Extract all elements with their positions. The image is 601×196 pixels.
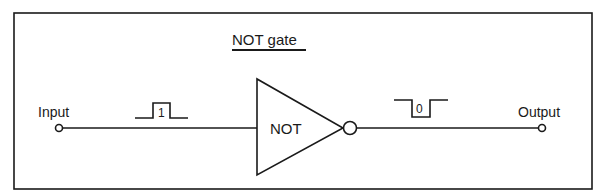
inversion-bubble-icon xyxy=(344,122,357,135)
diagram-frame xyxy=(14,13,592,189)
input-terminal-icon xyxy=(56,125,63,132)
diagram-title: NOT gate xyxy=(232,31,297,48)
input-pulse-value: 1 xyxy=(158,106,165,120)
output-label: Output xyxy=(518,104,560,120)
output-terminal-icon xyxy=(539,125,546,132)
gate-label: NOT xyxy=(270,120,302,137)
output-pulse-value: 0 xyxy=(416,102,423,116)
not-gate-diagram: NOT gate Input 1 NOT 0 Output xyxy=(0,0,601,196)
input-label: Input xyxy=(38,104,69,120)
